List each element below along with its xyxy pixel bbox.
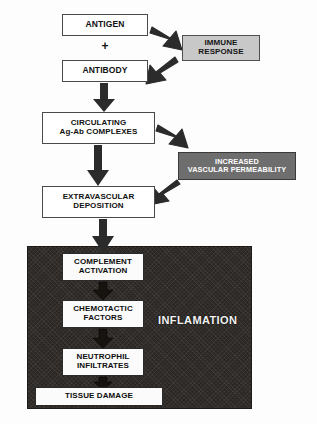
- node-vascular-permeability[interactable]: INCREASED VASCULAR PERMEABILITY: [178, 152, 296, 180]
- inflammation-label: INFLAMATION: [158, 314, 237, 326]
- arrow-circulating-to-permeability: [156, 125, 188, 148]
- node-neutrophil-infiltrates[interactable]: NEUTROPHIL INFILTRATES: [62, 348, 144, 376]
- node-circulating-line2: Ag-Ab COMPLEXES: [60, 128, 138, 137]
- node-antigen[interactable]: ANTIGEN: [62, 14, 148, 36]
- node-complement-line2: ACTIVATION: [79, 267, 128, 276]
- arrow-antigen-to-immune: [150, 27, 182, 50]
- node-chemotactic-factors[interactable]: CHEMOTACTIC FACTORS: [62, 300, 144, 328]
- node-neutrophil-line2: INFILTRATES: [77, 362, 129, 371]
- node-tissue-damage[interactable]: TISSUE DAMAGE: [35, 387, 163, 406]
- node-antigen-label: ANTIGEN: [86, 20, 125, 30]
- node-circulating-complexes[interactable]: CIRCULATING Ag-Ab COMPLEXES: [42, 112, 155, 144]
- node-chemotactic-line2: FACTORS: [84, 314, 123, 323]
- node-extravascular-line2: DEPOSITION: [73, 202, 123, 211]
- node-tissue-damage-label: TISSUE DAMAGE: [65, 392, 133, 401]
- node-immune-response[interactable]: IMMUNE RESPONSE: [182, 35, 260, 61]
- plus-operator: +: [62, 39, 148, 53]
- node-immune-response-line2: RESPONSE: [198, 48, 243, 57]
- arrow-antibody-to-circulating: [93, 83, 115, 112]
- flowchart-canvas: INFLAMATION: [0, 0, 317, 424]
- node-extravascular-deposition[interactable]: EXTRAVASCULAR DEPOSITION: [42, 186, 155, 218]
- node-antibody[interactable]: ANTIBODY: [62, 60, 148, 82]
- node-antibody-label: ANTIBODY: [82, 66, 127, 76]
- node-complement-activation[interactable]: COMPLEMENT ACTIVATION: [62, 253, 144, 281]
- node-permeability-line2: VASCULAR PERMEABILITY: [188, 166, 286, 174]
- arrow-immune-to-antibody: [146, 57, 178, 84]
- arrow-circulating-to-extravascular: [87, 145, 109, 186]
